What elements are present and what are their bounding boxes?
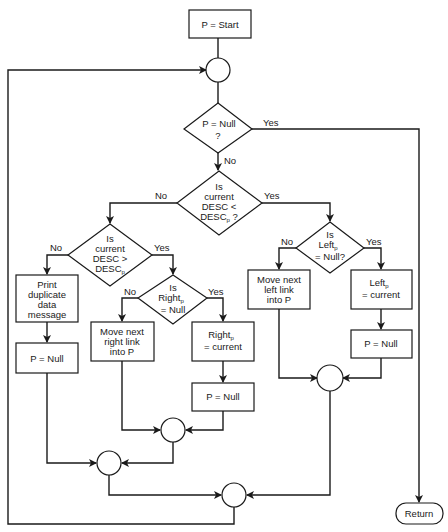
svg-text:P = Null: P = Null (206, 391, 239, 402)
svg-text:DESCp: DESCp (95, 263, 125, 275)
process-right-current: Rightp = current (192, 322, 254, 361)
svg-text:= current: = current (362, 289, 400, 300)
edge-label-right-yes: Yes (208, 286, 224, 297)
process-p-null-middle: P = Null (192, 383, 254, 411)
edge-label-greater-yes: Yes (154, 242, 170, 253)
decision-left-null: Is Leftp = Null? (296, 222, 364, 273)
connector-circle-right-merge (161, 418, 185, 442)
svg-text:P = Null: P = Null (30, 353, 63, 364)
svg-text:Return: Return (405, 508, 434, 519)
flowchart: P = Start P = Null ? Yes No Is current D… (0, 0, 448, 532)
svg-text:DESCp ?: DESCp ? (200, 211, 238, 223)
edge-label-left-no: No (281, 236, 293, 247)
decision-desc-greater: Is current DESC > DESCp (68, 224, 152, 286)
svg-text:= Null: = Null (161, 304, 186, 315)
process-print-duplicate: Print duplicate data message (16, 275, 78, 322)
svg-text:into P: into P (267, 294, 291, 305)
process-move-left-link: Move next left link into P (248, 270, 310, 309)
terminator-return: Return (396, 503, 443, 524)
edge-label-right-no: No (124, 286, 136, 297)
edge-label-left-yes: Yes (366, 236, 382, 247)
connector-circle-bottom-merge (222, 483, 246, 507)
svg-text:P = Start: P = Start (201, 19, 238, 30)
edge-label-less-yes: Yes (264, 190, 280, 201)
process-move-right-link: Move next right link into P (91, 322, 154, 361)
connector-circle-left-merge (97, 451, 121, 475)
svg-text:P = Null: P = Null (202, 118, 235, 129)
svg-text:= Null?: = Null? (315, 251, 345, 262)
svg-text:message: message (28, 309, 67, 320)
svg-text:= current: = current (204, 341, 242, 352)
process-p-null-left: P = Null (16, 343, 78, 373)
edge-label-greater-no: No (50, 242, 62, 253)
decision-p-null: P = Null ? (184, 103, 252, 153)
svg-text:into P: into P (110, 346, 134, 357)
svg-text:?: ? (215, 130, 220, 141)
edge-label-less-no: No (155, 190, 167, 201)
decision-right-null: Is Rightp = Null (138, 275, 207, 324)
process-p-null-right: P = Null (351, 330, 412, 358)
edge-label-null-no: No (224, 155, 236, 166)
connector-circle-left-branch-merge (317, 365, 343, 391)
svg-text:P = Null: P = Null (364, 338, 397, 349)
start-box: P = Start (189, 10, 251, 38)
decision-desc-less: Is current DESC < DESCp ? (177, 171, 262, 235)
connector-circle-top (206, 58, 230, 82)
edge-label-null-yes: Yes (263, 117, 279, 128)
process-left-current: Leftp = current (351, 270, 412, 309)
